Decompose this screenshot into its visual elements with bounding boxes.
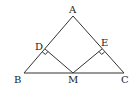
label-m: M (68, 74, 78, 85)
segment-dm (45, 49, 73, 73)
geometry-figure: A B C D E M (0, 0, 140, 94)
label-c: C (121, 74, 129, 85)
label-e: E (101, 37, 108, 48)
label-d: D (35, 41, 43, 52)
label-a: A (68, 4, 77, 15)
segment-ac (73, 16, 124, 73)
segment-ab (24, 16, 73, 73)
segment-em (73, 49, 102, 73)
right-angle-mark-d (42, 52, 48, 55)
label-b: B (14, 74, 21, 85)
right-angle-mark-e (99, 52, 105, 55)
